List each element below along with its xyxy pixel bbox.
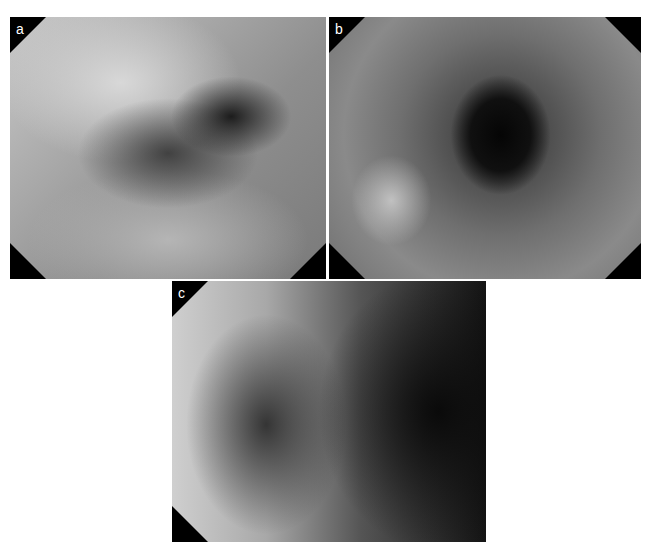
corner-mask: [290, 243, 326, 279]
corner-mask: [605, 243, 641, 279]
corner-mask: [605, 17, 641, 53]
corner-mask: [329, 243, 365, 279]
corner-mask: [10, 243, 46, 279]
panel-label-c: c: [178, 285, 185, 301]
image-panel-b: b: [329, 17, 641, 279]
panel-label-a: a: [16, 21, 24, 37]
image-panel-a: a: [10, 17, 326, 279]
corner-mask: [172, 506, 208, 542]
panel-label-b: b: [335, 21, 343, 37]
image-panel-c: c: [172, 281, 486, 542]
